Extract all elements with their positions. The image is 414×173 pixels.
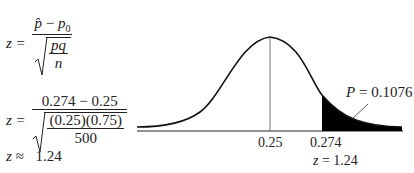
tick-label-mean: 0.25	[258, 135, 283, 151]
z-annotation: z = 1.24	[313, 153, 358, 169]
tick-label-observed: 0.274	[310, 135, 342, 151]
p-value-annotation: P = 0.1076	[346, 84, 412, 101]
p-value: = 0.1076	[355, 84, 412, 100]
bell-curve	[137, 37, 402, 127]
p-value-leader-line	[352, 104, 368, 119]
z-annotation-value: = 1.24	[318, 153, 357, 168]
p-symbol: P	[346, 84, 355, 100]
